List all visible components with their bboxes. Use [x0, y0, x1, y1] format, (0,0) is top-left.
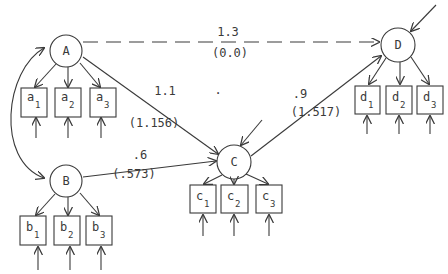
path-C-D-estimate: (1.517)	[291, 105, 342, 119]
path-B-C-estimate: (.573)	[112, 167, 155, 181]
factor-D-label: D	[394, 38, 401, 52]
indicator-b1-letter: b	[26, 220, 33, 234]
stray-dot: .	[214, 83, 221, 97]
indicator-c1-sub: 1	[204, 199, 209, 209]
indicator-b2-letter: b	[60, 220, 67, 234]
factor-C-label: C	[230, 155, 237, 169]
indicator-a1-letter: a	[27, 90, 34, 104]
indicator-a2-sub: 2	[69, 100, 74, 110]
indicator-d3-sub: 3	[431, 100, 436, 110]
indicator-c2-sub: 2	[235, 199, 240, 209]
disturbance-arrow-C	[241, 120, 262, 145]
loading-arrow-D-d3	[411, 57, 429, 84]
loading-arrow-B-b1	[36, 194, 55, 215]
indicator-b1-sub: 1	[34, 230, 39, 240]
path-A-D-estimate: (0.0)	[212, 46, 248, 60]
indicator-b2-sub: 2	[68, 230, 73, 240]
loading-arrow-B-b3	[80, 193, 99, 215]
indicator-d1-sub: 1	[368, 100, 373, 110]
indicator-a3-sub: 3	[104, 100, 109, 110]
path-diagram: A B C D a 1 a 2 a 3 b 1 b 2 b 3 c 1 c 2 …	[0, 0, 448, 274]
path-C-D-coefficient: .9	[293, 87, 307, 101]
factor-B-label: B	[62, 174, 69, 188]
indicator-c1-letter: c	[196, 189, 203, 203]
loading-arrow-A-a1	[35, 64, 56, 87]
indicator-b3-letter: b	[92, 220, 99, 234]
disturbance-arrow-D	[411, 5, 436, 31]
indicator-a1-sub: 1	[35, 100, 40, 110]
path-A-C-coefficient: 1.1	[154, 84, 176, 98]
indicator-d3-letter: d	[423, 90, 430, 104]
loading-arrow-C-c1	[204, 175, 222, 184]
indicator-c3-letter: c	[262, 189, 269, 203]
path-B-C-coefficient: .6	[133, 148, 147, 162]
covariance-A-B-curve	[11, 48, 44, 178]
indicator-a2-letter: a	[61, 90, 68, 104]
path-A-C-estimate: (1.156)	[129, 116, 180, 130]
loading-arrow-C-c3	[246, 174, 268, 184]
path-A-D-coefficient: 1.3	[217, 25, 239, 39]
loading-arrow-D-d1	[369, 58, 386, 84]
indicator-c3-sub: 3	[270, 199, 275, 209]
indicator-d2-sub: 2	[400, 100, 405, 110]
indicator-c2-letter: c	[227, 189, 234, 203]
indicator-d1-letter: d	[360, 90, 367, 104]
factor-A-label: A	[62, 44, 70, 58]
indicator-d2-letter: d	[392, 90, 399, 104]
indicator-b3-sub: 3	[100, 230, 105, 240]
indicator-a3-letter: a	[96, 90, 103, 104]
